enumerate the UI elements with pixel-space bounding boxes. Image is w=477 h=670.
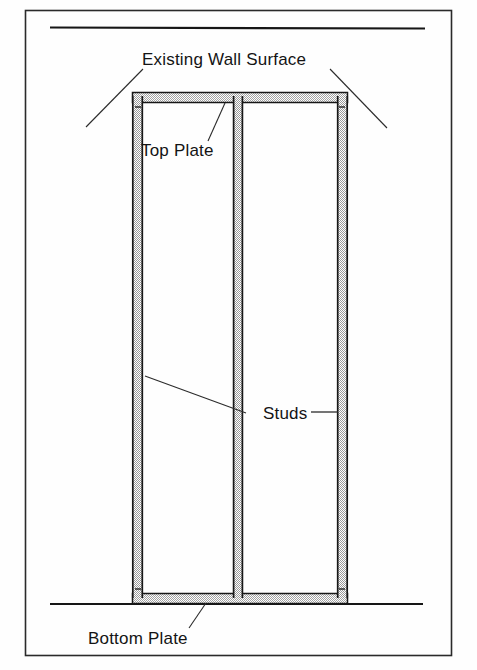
stud-left: [132, 96, 143, 598]
wall-framing-figure: Existing Wall Surface Top Plate Studs Bo…: [0, 0, 477, 670]
stud-middle: [233, 96, 243, 598]
ceiling-line: [50, 28, 425, 29]
label-existing-wall-surface: Existing Wall Surface: [142, 50, 306, 69]
label-studs: Studs: [263, 404, 307, 423]
label-top-plate: Top Plate: [141, 141, 214, 160]
stud-right: [337, 96, 348, 598]
diagram-canvas: Existing Wall Surface Top Plate Studs Bo…: [0, 0, 477, 670]
label-bottom-plate: Bottom Plate: [88, 629, 188, 648]
